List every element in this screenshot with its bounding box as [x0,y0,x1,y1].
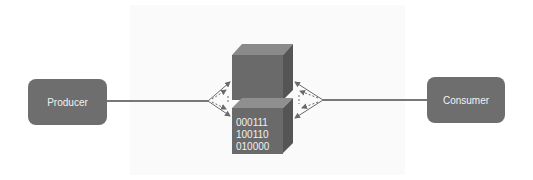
producer-label: Producer [47,97,88,108]
consumer-arrows [295,82,323,118]
consumer-label: Consumer [443,95,489,106]
binary-data-label: 000111 100110 010000 [236,117,269,153]
binary-line-3: 010000 [236,141,269,153]
binary-line-2: 100110 [236,129,269,141]
binary-line-1: 000111 [236,117,269,129]
consumer-node: Consumer [427,77,505,123]
diagram-canvas: Producer Consumer 000111 100110 010000 [0,0,533,180]
producer-node: Producer [28,79,107,125]
producer-arrows [208,82,230,116]
top-storage-cube [232,44,293,100]
